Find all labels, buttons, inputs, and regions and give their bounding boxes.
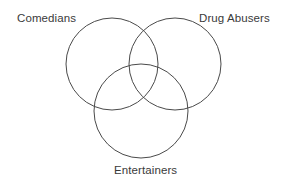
venn-label-comedians: Comedians [17, 12, 76, 25]
venn-circles-group [0, 0, 290, 180]
venn-circle-entertainers [94, 64, 188, 158]
venn-label-drug-abusers: Drug Abusers [199, 12, 270, 25]
venn-label-entertainers: Entertainers [114, 164, 177, 177]
venn-diagram-canvas: Comedians Drug Abusers Entertainers [0, 0, 290, 180]
